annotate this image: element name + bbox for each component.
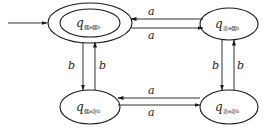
transition-label: b — [68, 59, 75, 72]
state-odd-a-even-b: q 奇a偶b — [200, 8, 258, 40]
transition-label: b — [237, 59, 244, 72]
state-symbol: q — [215, 100, 223, 114]
state-subscript: 奇a奇b — [223, 108, 239, 115]
state-even-a-odd-b: q 偶a奇b — [60, 90, 120, 124]
state-symbol: q — [215, 17, 223, 31]
transition-label: a — [148, 106, 155, 119]
transition-label: a — [148, 84, 155, 97]
state-subscript: 奇a偶b — [223, 25, 239, 32]
state-subscript: 偶a偶b — [84, 24, 100, 31]
transition-label: a — [148, 5, 155, 18]
state-odd-a-odd-b: q 奇a奇b — [200, 90, 258, 124]
automaton-diagram: q 偶a偶b q 奇a偶b q 偶a奇b q 奇a奇b a a a a b b … — [0, 0, 265, 130]
state-circle — [60, 90, 120, 124]
state-circle — [60, 9, 120, 37]
state-circle — [200, 8, 258, 40]
state-symbol: q — [76, 16, 84, 30]
transition-label: a — [148, 29, 155, 42]
state-even-a-even-b: q 偶a偶b — [48, 3, 132, 43]
state-subscript: 偶a奇b — [84, 108, 100, 115]
state-symbol: q — [76, 100, 84, 114]
transition-label: b — [212, 59, 219, 72]
transition-label: b — [99, 59, 106, 72]
state-circle — [200, 90, 258, 124]
